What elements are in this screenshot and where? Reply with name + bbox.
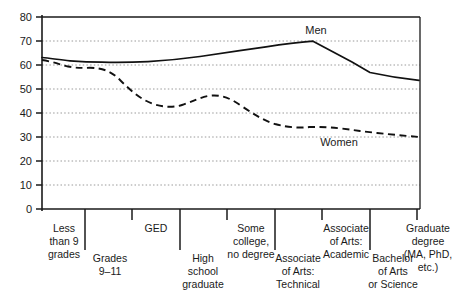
series-annotation-men: Men — [305, 24, 326, 36]
series-annotation-women: Women — [320, 136, 358, 148]
ytick-label-40: 40 — [20, 107, 32, 119]
ytick-label-50: 50 — [20, 83, 32, 95]
category-label-high-school-graduate: High school graduate — [182, 252, 224, 290]
cat-label-line: Some — [237, 222, 265, 234]
y-axis-tick-labels: 80 70 60 50 40 30 20 10 0 — [20, 11, 32, 215]
cat-label-line: college, — [233, 235, 269, 247]
cat-label-line: of Arts: — [282, 265, 315, 277]
ytick-label-80: 80 — [20, 11, 32, 23]
ytick-label-70: 70 — [20, 35, 32, 47]
cat-label-line: etc.) — [418, 261, 438, 273]
cat-label-line: Bachelor — [372, 252, 414, 264]
chart-canvas: 80 70 60 50 40 30 20 10 0 M — [0, 0, 456, 298]
cat-label-line: or Science — [368, 278, 418, 290]
ytick-label-60: 60 — [20, 59, 32, 71]
cat-label-line: degree — [412, 235, 445, 247]
category-label-less-than-9-grades: Less than 9 grades — [48, 222, 80, 260]
ytick-label-20: 20 — [20, 155, 32, 167]
ytick-label-10: 10 — [20, 179, 32, 191]
cat-label-line: of Arts — [378, 265, 408, 277]
cat-label-line: no degree — [227, 248, 274, 260]
ytick-label-30: 30 — [20, 131, 32, 143]
category-label-bachelor-of-arts-or-science: Bachelor of Arts or Science — [368, 252, 418, 290]
ytick-label-0: 0 — [26, 203, 32, 215]
cat-label-line: Associate — [323, 222, 369, 234]
cat-label-line: Less — [53, 222, 75, 234]
cat-label-line: 9–11 — [99, 265, 122, 277]
cat-label-line: grades — [48, 248, 80, 260]
cat-label-line: GED — [145, 222, 168, 234]
category-label-graduate-degree: Graduate degree (MA, PhD, etc.) — [404, 222, 452, 273]
cat-label-line: High — [192, 252, 214, 264]
cat-label-line: Grades — [93, 252, 127, 264]
category-label-some-college-no-degree: Some college, no degree — [227, 222, 274, 260]
category-label-associate-of-arts-technical: Associate of Arts: Technical — [275, 252, 321, 290]
cat-label-line: Graduate — [406, 222, 450, 234]
category-label-grades-9-11: Grades 9–11 — [93, 252, 127, 277]
line-chart: 80 70 60 50 40 30 20 10 0 M — [0, 0, 456, 298]
cat-label-line: graduate — [182, 278, 224, 290]
y-axis-ticks — [36, 17, 42, 209]
category-label-associate-of-arts-academic: Associate of Arts: Academic — [323, 222, 369, 260]
category-label-ged: GED — [145, 222, 168, 234]
cat-label-line: Academic — [323, 248, 369, 260]
cat-label-line: school — [188, 265, 218, 277]
cat-label-line: than 9 — [49, 235, 78, 247]
cat-label-line: of Arts: — [330, 235, 363, 247]
cat-label-line: Technical — [276, 278, 320, 290]
cat-label-line: Associate — [275, 252, 321, 264]
